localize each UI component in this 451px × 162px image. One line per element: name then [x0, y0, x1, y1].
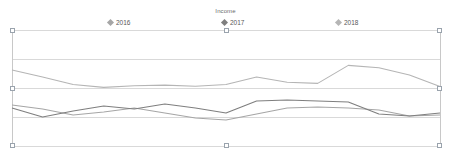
handle-top-center[interactable] [224, 28, 229, 33]
gridlines [12, 31, 440, 147]
series-lines [12, 65, 440, 120]
handle-bottom-center[interactable] [224, 143, 229, 148]
series-line-2018 [12, 65, 440, 87]
handle-middle-left[interactable] [10, 86, 15, 91]
handle-bottom-left[interactable] [10, 143, 15, 148]
handle-middle-right[interactable] [437, 86, 442, 91]
handle-bottom-right[interactable] [437, 143, 442, 148]
handle-top-left[interactable] [10, 28, 15, 33]
chart-object[interactable]: Income 2016 2017 2018 [0, 0, 451, 162]
handle-top-right[interactable] [437, 28, 442, 33]
plot-area[interactable] [0, 0, 451, 162]
